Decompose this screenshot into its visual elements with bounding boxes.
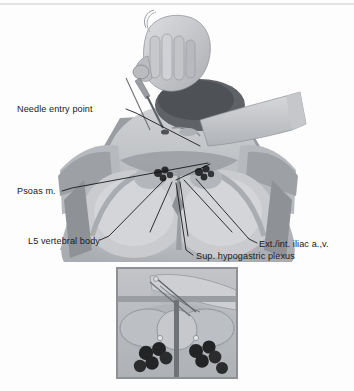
inset-hub <box>154 277 159 282</box>
label-l5-vertebral-body: L5 vertebral body <box>28 236 100 246</box>
gloved-hand <box>136 10 211 91</box>
gluteal-right-hi <box>182 178 262 246</box>
needle-entry-mark <box>161 129 169 134</box>
finger-middle <box>162 34 172 80</box>
gluteal-left-hi <box>94 178 174 246</box>
inset-content <box>118 269 236 378</box>
label-needle-entry-point: Needle entry point <box>17 104 93 114</box>
medical-illustration-figure: Needle entry pointPsoas m.L5 vertebral b… <box>0 0 354 391</box>
finger-little <box>186 40 195 78</box>
skin-fold-mass <box>179 128 197 136</box>
finger-index <box>150 36 160 78</box>
label-ext-int-iliac-vessels: Ext./int. iliac a.,v. <box>259 239 329 249</box>
inset-tip-right <box>193 335 198 340</box>
label-psoas-muscle: Psoas m. <box>17 186 56 196</box>
finger-ring <box>174 36 184 80</box>
detail-inset-panel <box>117 268 237 378</box>
needle-hub <box>133 65 149 79</box>
inset-tip-left <box>157 335 162 340</box>
inset-midline-needle <box>174 300 179 378</box>
label-sup-hypogastric-plexus: Sup. hypogastric plexus <box>196 251 295 261</box>
